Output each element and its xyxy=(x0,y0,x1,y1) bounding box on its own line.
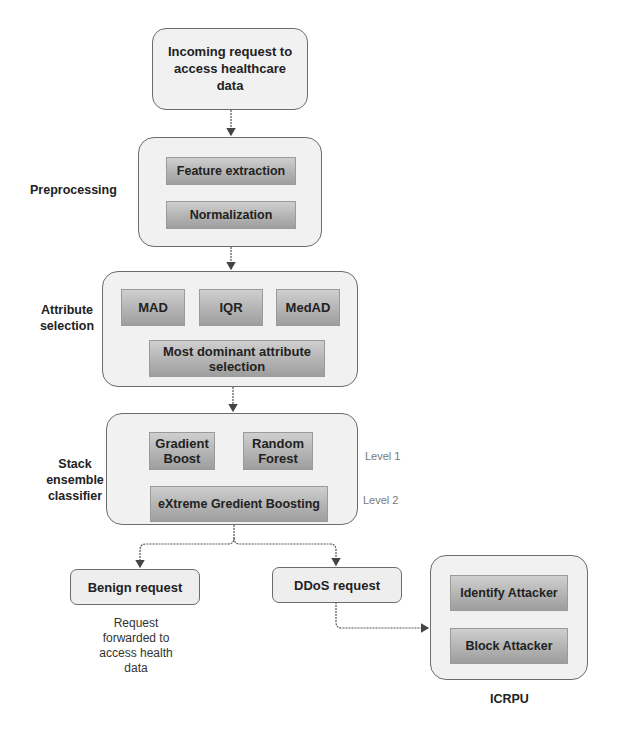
level-2-label: Level 2 xyxy=(363,494,398,506)
iqr-method: IQR xyxy=(199,289,263,326)
arrow-stack-to-benign xyxy=(140,525,234,567)
stack-ensemble-side-label: Stack ensemble classifier xyxy=(42,456,108,504)
most-dominant-attribute-selection: Most dominant attribute selection xyxy=(149,340,325,377)
icrpu-group: Identify Attacker Block Attacker xyxy=(430,555,588,680)
normalization-step: Normalization xyxy=(166,201,296,229)
benign-request-note: Request forwarded to access health data xyxy=(88,616,184,676)
random-forest-model: Random Forest xyxy=(243,432,313,470)
gradient-boost-model: Gradient Boost xyxy=(149,432,215,470)
attribute-selection-side-label: Attribute selection xyxy=(30,302,104,334)
benign-request-node: Benign request xyxy=(70,569,200,605)
attribute-selection-group: MAD IQR MedAD Most dominant attribute se… xyxy=(102,271,358,387)
feature-extraction-step: Feature extraction xyxy=(166,157,296,185)
incoming-request-node: Incoming request to access healthcare da… xyxy=(152,28,308,110)
level-1-label: Level 1 xyxy=(365,450,400,462)
preprocessing-group: Feature extraction Normalization xyxy=(138,137,322,247)
medad-method: MedAD xyxy=(276,289,340,326)
arrow-stack-to-ddos xyxy=(234,538,336,565)
icrpu-title: ICRPU xyxy=(490,692,529,706)
block-attacker-action: Block Attacker xyxy=(450,628,568,664)
preprocessing-side-label: Preprocessing xyxy=(30,182,138,198)
identify-attacker-action: Identify Attacker xyxy=(450,575,568,611)
xgboost-model: eXtreme Gredient Boosting xyxy=(150,486,328,522)
incoming-request-label: Incoming request to access healthcare da… xyxy=(161,43,299,94)
mad-method: MAD xyxy=(121,289,185,326)
ddos-request-node: DDoS request xyxy=(272,567,402,603)
stack-ensemble-group: Gradient Boost Random Forest eXtreme Gre… xyxy=(106,413,358,525)
arrow-ddos-to-icrpu xyxy=(336,602,428,628)
